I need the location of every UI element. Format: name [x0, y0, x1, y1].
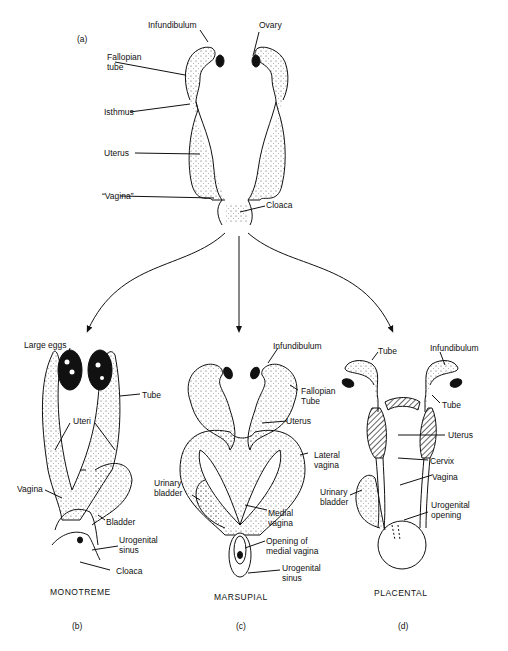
label-d-tube-right: Tube	[442, 400, 461, 410]
label-d-uterus: Uterus	[448, 430, 473, 440]
diagram-drawing	[0, 0, 508, 651]
caption-marsupial: MARSUPIAL	[214, 592, 268, 602]
label-c-opening-medial-vagina: Opening of medial vagina	[266, 536, 318, 556]
label-c-lateral-vagina: Lateral vagina	[314, 450, 340, 470]
label-b-tube: Tube	[142, 390, 161, 400]
label-c-urogenital-sinus: Urogenital sinus	[282, 563, 321, 583]
label-c-infundibulum: Infundibulum	[273, 341, 322, 351]
label-a-fallopian-tube: Fallopian tube	[107, 52, 142, 72]
label-a-cloaca: Cloaca	[266, 200, 292, 210]
label-b-urogenital-sinus: Urogenital sinus	[119, 535, 158, 555]
label-b-bladder: Bladder	[106, 517, 135, 527]
label-d-urinary-bladder: Urinary bladder	[320, 487, 348, 507]
label-c-fallopian-tube: Fallopian Tube	[301, 386, 336, 406]
label-a-isthmus: Isthmus	[104, 107, 134, 117]
caption-placental: PLACENTAL	[374, 588, 427, 598]
label-d-vagina: Vagina	[432, 472, 458, 482]
label-d-infundibulum: Infundibulum	[430, 343, 479, 353]
caption-monotreme: MONOTREME	[50, 587, 111, 597]
panel-c-tag: (c)	[236, 621, 246, 631]
panel-d-tag: (d)	[398, 621, 408, 631]
label-c-urinary-bladder: Urinary bladder	[154, 478, 182, 498]
label-d-cervix: Cervix	[430, 456, 454, 466]
label-b-large-eggs: Large eggs	[24, 340, 67, 350]
label-b-cloaca: Cloaca	[116, 566, 142, 576]
label-a-vagina: “Vagina”	[102, 191, 134, 201]
label-a-ovary: Ovary	[259, 20, 282, 30]
panel-b-tag: (b)	[72, 621, 82, 631]
label-a-infundibulum: Infundibulum	[148, 20, 197, 30]
label-c-uterus: Uterus	[286, 416, 311, 426]
label-d-tube-left: Tube	[378, 346, 397, 356]
label-d-urogenital-opening: Urogenital opening	[431, 500, 470, 520]
label-b-uteri: Uteri	[73, 416, 91, 426]
label-b-vagina: Vagina	[17, 484, 43, 494]
label-a-uterus: Uterus	[104, 148, 129, 158]
panel-a-tag: (a)	[77, 34, 87, 44]
label-c-medial-vagina: Medial vagina	[268, 508, 293, 528]
